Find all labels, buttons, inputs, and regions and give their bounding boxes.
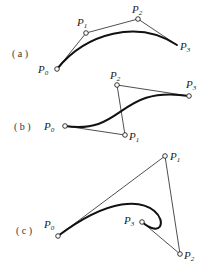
control-point-c-p3 (140, 220, 145, 225)
bezier-diagram: ( a ) P0 P1 P2 P3 ( b ) P0 P1 P2 P3 ( c … (0, 0, 210, 274)
control-polygon-a (57, 19, 177, 69)
bezier-curve-b (65, 94, 189, 127)
point-label-b-p2: P2 (109, 69, 121, 83)
point-label-c-p0: P0 (43, 218, 55, 232)
bezier-curve-c (58, 204, 161, 236)
point-label-c-p2: P2 (183, 249, 195, 263)
panel-label-a: ( a ) (12, 48, 28, 60)
point-label-a-p3: P3 (179, 40, 191, 54)
panel-label-c: ( c ) (16, 225, 32, 237)
point-label-a-p2: P2 (131, 3, 143, 17)
control-point-b-p3 (187, 94, 192, 99)
point-label-c-p1: P1 (169, 150, 180, 164)
point-label-a-p1: P1 (76, 16, 87, 30)
panel-b: ( b ) P0 P1 P2 P3 (14, 69, 197, 144)
control-point-a-p1 (84, 31, 89, 36)
point-label-c-p3: P3 (123, 214, 135, 228)
panel-a: ( a ) P0 P1 P2 P3 (12, 3, 191, 77)
point-label-b-p3: P3 (185, 78, 197, 92)
control-point-b-p2 (115, 83, 120, 88)
control-point-a-p2 (136, 17, 141, 22)
control-point-c-p2 (178, 252, 183, 257)
control-point-c-p0 (56, 234, 61, 239)
panel-label-b: ( b ) (14, 121, 31, 133)
control-point-b-p0 (63, 124, 68, 129)
point-label-b-p0: P0 (43, 120, 55, 134)
point-label-a-p0: P0 (37, 63, 49, 77)
control-point-a-p0 (55, 67, 60, 72)
point-label-b-p1: P1 (128, 130, 139, 144)
bezier-curve-a (57, 32, 177, 69)
panel-c: ( c ) P0 P1 P2 P3 (16, 150, 195, 263)
control-point-c-p1 (163, 154, 168, 159)
control-point-b-p1 (123, 133, 128, 138)
